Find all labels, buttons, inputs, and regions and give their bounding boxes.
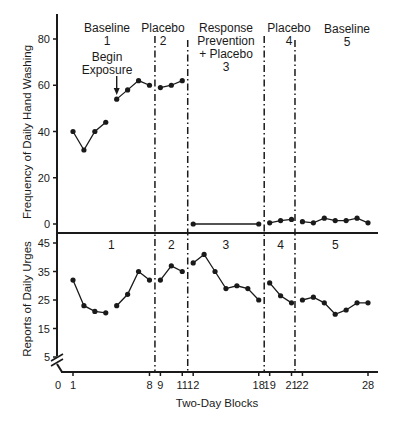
upper-data-point [136,78,141,83]
y-tick-label: 45 [38,237,50,249]
phase-label: Baseline [84,21,130,35]
lower-data-point [311,295,316,300]
lower-data-point [81,303,86,308]
y-tick-label: 40 [38,126,50,138]
lower-data-point [365,300,370,305]
y-tick-label: 35 [38,266,50,278]
lower-data-point [223,286,228,291]
lower-data-point [92,309,97,314]
upper-series-line [73,122,106,150]
lower-phase-label: 2 [168,238,175,252]
y-tick-label: 25 [38,294,50,306]
x-axis-title: Two-Day Blocks [176,397,259,409]
y-tick-label: 0 [44,218,50,230]
upper-data-point [344,218,349,223]
lower-data-point [212,269,217,274]
annotation-text: Exposure [82,63,133,77]
y-tick-label: 20 [38,172,50,184]
y-tick-label: 60 [38,79,50,91]
lower-data-point [289,300,294,305]
upper-data-point [365,220,370,225]
lower-data-point [169,263,174,268]
lower-data-point [245,286,250,291]
lower-data-point [256,297,261,302]
chart-canvas: 020406080515253545018911121819212228Two-… [0,0,408,422]
upper-data-point [125,87,130,92]
lower-data-point [136,269,141,274]
annotation-text: Begin [92,50,123,64]
x-tick-label: 8 [146,379,152,391]
lower-data-point [267,280,272,285]
lower-data-point [234,283,239,288]
upper-data-point [300,219,305,224]
lower-series-line [117,272,150,306]
y-tick-label: 5 [44,351,50,363]
phase-label: Response [199,21,253,35]
lower-series-line [270,283,292,303]
upper-data-point [354,216,359,221]
phase-label: Prevention [197,34,254,48]
upper-data-point [169,83,174,88]
x-tick-label: 28 [362,379,374,391]
lower-data-point [354,300,359,305]
x-tick-label: 0 [55,379,61,391]
upper-data-point [92,129,97,134]
upper-data-point [278,218,283,223]
phase-label: + Placebo [199,47,253,61]
phase-label: 3 [223,60,230,74]
upper-series-line [117,81,150,100]
upper-y-axis-title: Frequency of Daily Hand Washing [21,45,33,219]
upper-data-point [81,147,86,152]
lower-data-point [180,269,185,274]
lower-phase-label: 1 [108,238,115,252]
upper-data-point [311,220,316,225]
phase-label: Placebo [141,21,185,35]
y-tick-label: 15 [38,323,50,335]
phase-label: 5 [344,35,351,49]
lower-series-line [193,254,259,300]
phase-label: 4 [286,34,293,48]
lower-data-point [202,252,207,257]
x-tick-label: 12 [187,379,199,391]
lower-data-point [344,307,349,312]
y-tick-label: 80 [38,33,50,45]
upper-data-point [180,78,185,83]
lower-phase-label: 3 [223,238,230,252]
single-case-design-chart: 020406080515253545018911121819212228Two-… [0,0,408,422]
x-tick-label: 22 [296,379,308,391]
lower-data-point [147,277,152,282]
lower-phase-label: 5 [332,238,339,252]
x-tick-label: 1 [70,379,76,391]
lower-data-point [191,260,196,265]
lower-y-axis-foot [57,364,62,372]
lower-y-axis-title: Reports of Daily Urges [21,241,33,357]
x-tick-label: 19 [264,379,276,391]
phase-label: Baseline [324,22,370,36]
upper-data-point [158,85,163,90]
upper-data-point [333,218,338,223]
phase-label: Placebo [267,21,311,35]
lower-data-point [322,300,327,305]
x-tick-label: 9 [157,379,163,391]
upper-data-point [103,120,108,125]
lower-data-point [278,293,283,298]
upper-data-point [114,97,119,102]
upper-data-point [70,129,75,134]
phase-label: 2 [160,34,167,48]
phase-label: 1 [104,34,111,48]
lower-data-point [158,277,163,282]
lower-phase-label: 4 [277,238,284,252]
upper-data-point [191,221,196,226]
lower-series-line [73,280,106,313]
lower-data-point [333,312,338,317]
lower-data-point [114,303,119,308]
lower-data-point [300,297,305,302]
upper-data-point [256,221,261,226]
arrow-head-icon [114,88,120,95]
upper-data-point [267,220,272,225]
lower-data-point [70,277,75,282]
upper-data-point [147,83,152,88]
lower-data-point [103,310,108,315]
upper-data-point [289,217,294,222]
upper-data-point [322,216,327,221]
